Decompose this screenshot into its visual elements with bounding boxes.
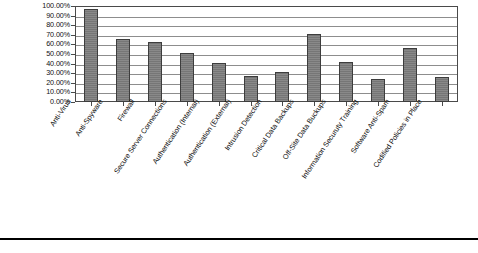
caption-clip (0, 241, 478, 253)
bar-slot (203, 6, 235, 102)
x-tick-label: Firewall (116, 98, 136, 123)
bar-chart: 100.00%90.00%80.00%70.00%60.00%50.00%40.… (28, 6, 458, 110)
bar-slot (267, 6, 299, 102)
x-tick-mark (442, 102, 443, 106)
y-tick-label: 100.00% (42, 2, 70, 9)
x-axis: Anti-VirusAnti-SpywareFirewallSecure Ser… (47, 98, 430, 218)
bar (212, 63, 226, 102)
bar-slot (171, 6, 203, 102)
y-tick-label: 40.00% (46, 60, 70, 67)
bar-slot (362, 6, 394, 102)
bar-slot (235, 6, 267, 102)
bar (435, 77, 449, 102)
bar-slot (330, 6, 362, 102)
bar (148, 42, 162, 102)
caption-divider (0, 238, 478, 240)
bar (116, 39, 130, 102)
y-tick-label: 70.00% (46, 31, 70, 38)
bars-layer (75, 6, 458, 102)
bar-slot (107, 6, 139, 102)
x-tick-label: Anti-Spyware (74, 98, 105, 138)
x-tick-label: Information Securuty Training (301, 98, 360, 180)
bar (339, 62, 353, 102)
figure-container: 100.00%90.00%80.00%70.00%60.00%50.00%40.… (0, 0, 478, 253)
y-tick-label: 10.00% (46, 89, 70, 96)
y-tick-label: 30.00% (46, 70, 70, 77)
y-axis: 100.00%90.00%80.00%70.00%60.00%50.00%40.… (28, 6, 73, 102)
y-tick-label: 60.00% (46, 41, 70, 48)
bar (403, 48, 417, 102)
bar-slot (426, 6, 458, 102)
x-tick-label: Anti-Virus (49, 98, 73, 128)
bar-slot (394, 6, 426, 102)
y-tick-label: 50.00% (46, 50, 70, 57)
y-tick-label: 80.00% (46, 22, 70, 29)
bar-slot (139, 6, 171, 102)
bar (307, 34, 321, 102)
bar (180, 53, 194, 102)
y-tick-label: 20.00% (46, 79, 70, 86)
bar-slot (298, 6, 330, 102)
bar (84, 9, 98, 102)
y-tick-label: 90.00% (46, 12, 70, 19)
bar-slot (75, 6, 107, 102)
